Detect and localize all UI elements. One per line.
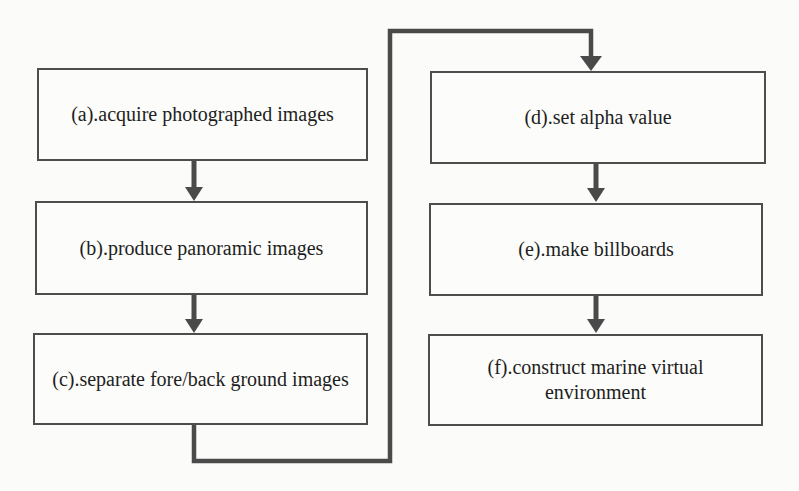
flow-box-produce-panoramic-images: (b).produce panoramic images bbox=[35, 201, 368, 295]
flow-box-label: (e).make billboards bbox=[518, 237, 674, 262]
flowchart-canvas: (a).acquire photographed images (b).prod… bbox=[0, 0, 799, 491]
flow-box-acquire-photographed-images: (a).acquire photographed images bbox=[37, 68, 368, 161]
flow-box-set-alpha-value: (d).set alpha value bbox=[430, 71, 766, 164]
flow-box-label: (c).separate fore/back ground images bbox=[52, 367, 349, 392]
flow-box-label: (a).acquire photographed images bbox=[71, 102, 334, 127]
flow-box-construct-marine-virtual-environment: (f).construct marine virtual environment bbox=[428, 334, 763, 426]
arrow-b-to-c bbox=[185, 295, 203, 333]
flow-box-separate-fore-back-ground-images: (c).separate fore/back ground images bbox=[33, 333, 368, 425]
flow-box-make-billboards: (e).make billboards bbox=[429, 203, 763, 296]
flow-box-label: (b).produce panoramic images bbox=[80, 236, 324, 261]
flow-box-label: (d).set alpha value bbox=[524, 105, 671, 130]
arrow-a-to-b bbox=[185, 161, 203, 201]
arrow-d-to-e bbox=[587, 164, 605, 202]
arrow-e-to-f bbox=[587, 296, 605, 333]
flow-box-label: (f).construct marine virtual environment bbox=[461, 355, 731, 405]
